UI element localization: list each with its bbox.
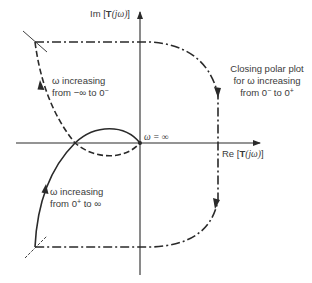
positive-branch-line2: from 0+ to ∞ — [50, 198, 103, 210]
closing-line3: from 0− to 0+ — [222, 87, 312, 99]
negative-branch-line2: from −∞ to 0− — [52, 87, 109, 99]
negative-branch-line1: ω increasing — [52, 75, 109, 87]
arrow-closing-bottom — [213, 198, 220, 209]
closing-line1: Closing polar plot — [222, 63, 312, 75]
negative-branch-annotation: ω increasing from −∞ to 0− — [52, 75, 109, 99]
positive-branch-annotation: ω increasing from 0+ to ∞ — [50, 186, 103, 210]
arrow-closing-top — [214, 87, 221, 98]
omega-infinity-label: ω = ∞ — [144, 131, 169, 143]
omega-infinity-point — [138, 141, 142, 145]
closing-line2: for ω increasing — [222, 75, 312, 87]
closing-contour — [35, 42, 218, 247]
real-axis-label: Re [T(jω)] — [222, 148, 264, 160]
closing-contour-annotation: Closing polar plot for ω increasing from… — [222, 63, 312, 99]
positive-branch-line1: ω increasing — [50, 186, 103, 198]
imag-axis-label: Im [T(jω)] — [90, 8, 130, 20]
